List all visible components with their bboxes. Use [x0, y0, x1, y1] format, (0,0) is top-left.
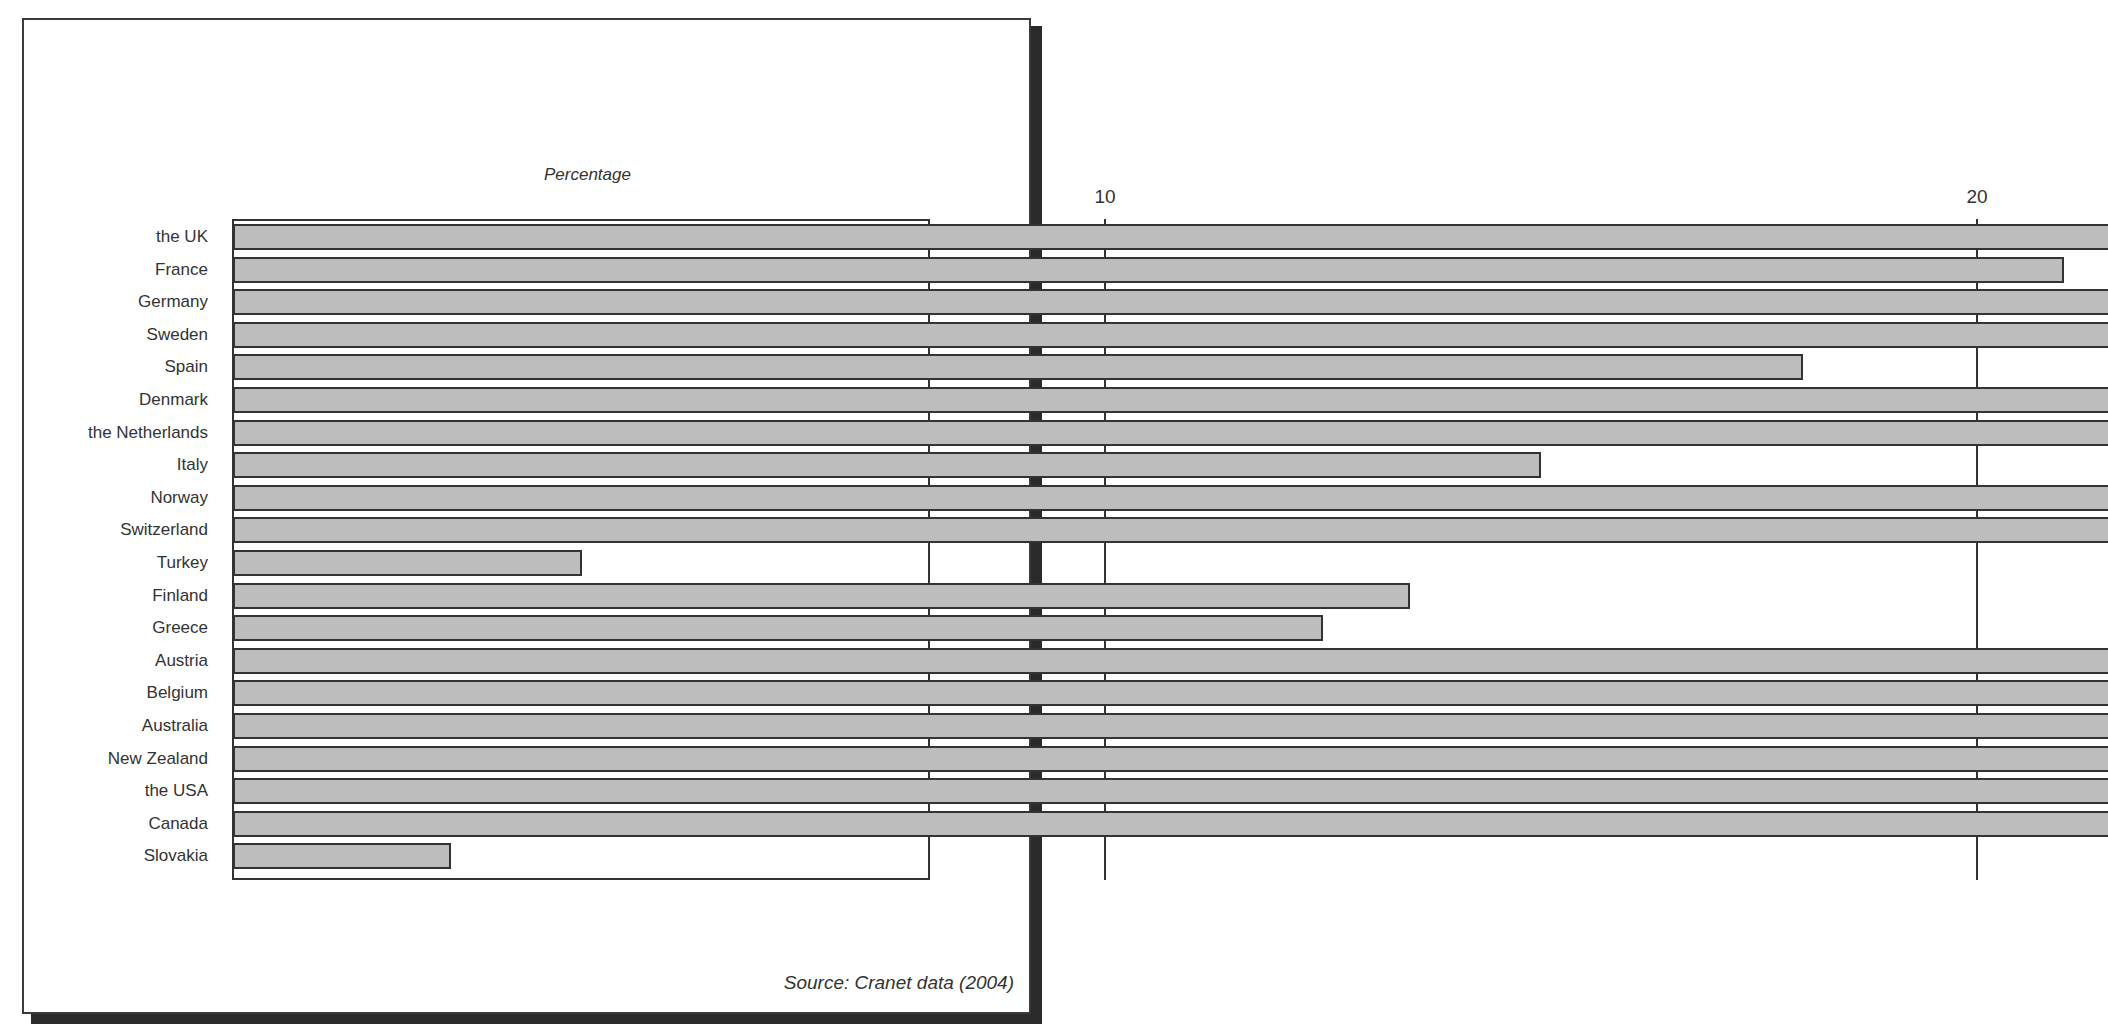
category-label: Finland: [152, 586, 208, 606]
bar: [233, 322, 2108, 348]
bar: [233, 224, 2108, 250]
bar: [233, 583, 1410, 609]
category-label: Austria: [155, 651, 208, 671]
x-tick-label: 20: [1966, 186, 1987, 208]
category-label: Italy: [177, 455, 208, 475]
bar: [233, 485, 2108, 511]
category-label: France: [155, 260, 208, 280]
bar: [233, 615, 1323, 641]
category-label: Germany: [138, 292, 208, 312]
x-axis-title: Percentage: [544, 165, 1598, 185]
bar: [233, 778, 2108, 804]
bar: [233, 843, 451, 869]
category-label: Greece: [152, 618, 208, 638]
category-label: New Zealand: [108, 749, 208, 769]
bar: [233, 680, 2108, 706]
bar: [233, 811, 2108, 837]
bar: [233, 387, 2108, 413]
category-label: Slovakia: [144, 846, 208, 866]
category-label: Switzerland: [120, 520, 208, 540]
bar: [233, 746, 2108, 772]
bar: [233, 648, 2108, 674]
source-note: Source: Cranet data (2004): [784, 972, 1014, 994]
bar: [233, 550, 582, 576]
category-label: Sweden: [147, 325, 208, 345]
category-label: Canada: [148, 814, 208, 834]
bar: [233, 452, 1541, 478]
category-label: Spain: [165, 357, 208, 377]
bar: [233, 420, 2108, 446]
category-label: Australia: [142, 716, 208, 736]
bar: [233, 713, 2108, 739]
bar: [233, 517, 2108, 543]
category-label: the Netherlands: [88, 423, 208, 443]
category-label: Denmark: [139, 390, 208, 410]
x-tick-label: 10: [1094, 186, 1115, 208]
category-label: Norway: [150, 488, 208, 508]
category-label: the UK: [156, 227, 208, 247]
bar: [233, 289, 2108, 315]
category-label: Turkey: [157, 553, 208, 573]
bar: [233, 257, 2064, 283]
bar: [233, 354, 1803, 380]
category-label: Belgium: [147, 683, 208, 703]
category-label: the USA: [145, 781, 208, 801]
